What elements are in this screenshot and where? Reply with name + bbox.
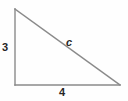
hypotenuse-label: c (66, 37, 72, 48)
horizontal-leg-label: 4 (59, 87, 65, 98)
right-triangle-figure: 3 4 c (0, 0, 128, 101)
vertical-leg-label: 3 (2, 42, 8, 53)
